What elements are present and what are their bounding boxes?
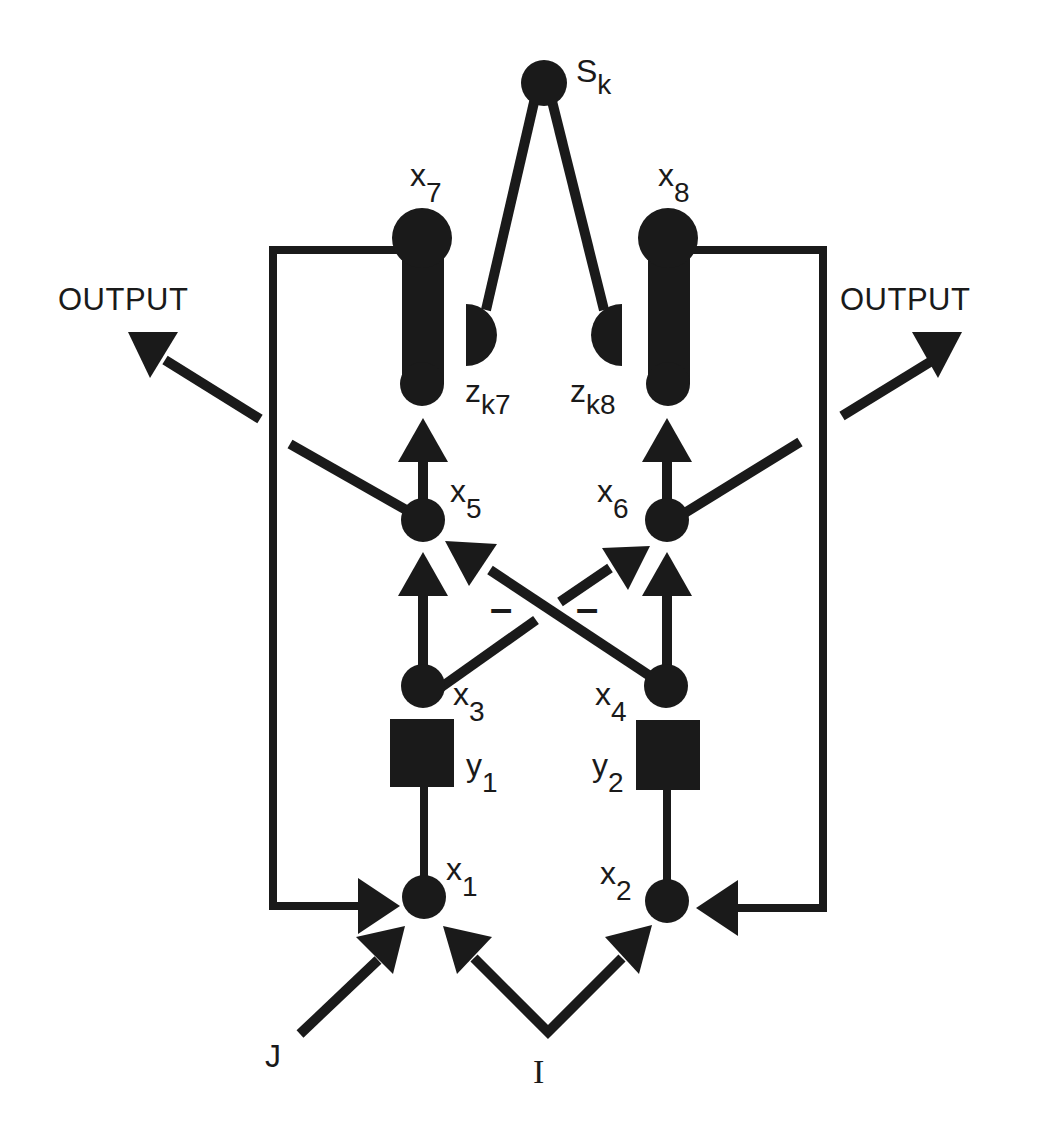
input-j-label: J [265,1038,281,1074]
output-right-line-lower [675,442,800,519]
inhibitory-sign-left: – [490,586,512,630]
x4-node [644,664,688,708]
arrowhead-x6-from-x4 [642,552,692,596]
arrowhead-feedback-x2 [696,880,738,936]
sk-to-zk7-line [486,85,538,310]
x2-label: x2 [600,855,632,906]
feedback-x8-to-x2 [690,250,823,908]
y2-label: y2 [592,747,624,798]
feedback-x7-to-x1 [273,250,400,906]
output-left-group: OUTPUT [58,282,415,515]
input-i-lines [474,958,622,1032]
x1-node [402,875,446,919]
x6-node [645,498,689,542]
x7-head [392,208,452,268]
input-i-label: I [533,1053,544,1090]
x6-label: x6 [597,473,629,524]
x5-label: x5 [450,473,482,524]
input-j-line [300,960,378,1034]
x7-tail [400,362,444,406]
zk7-synapse [466,304,497,366]
x1-label: x1 [446,851,478,902]
input-i-group: I [443,925,652,1090]
arrowhead-x1-from-j [356,926,405,974]
x5-node [401,498,445,542]
x7-node-group: x7 [392,157,452,406]
zk7-synapse-group: zk7 [465,304,511,420]
arrowhead-feedback-x1 [358,878,400,934]
x7-label: x7 [410,157,442,208]
sk-node [521,60,567,106]
zk8-synapse [591,304,622,366]
arrowhead-x5-inhibitory [445,541,497,586]
output-right-label: OUTPUT [840,282,970,317]
y1-gate [390,719,454,787]
inhibitory-sign-right: – [576,586,598,630]
arrowhead-x7 [398,418,448,462]
zk7-label: zk7 [465,373,511,420]
output-left-line-upper [165,360,260,419]
x8-tail [646,362,690,406]
x8-label: x8 [658,157,690,208]
zk8-label: zk8 [570,373,616,420]
output-right-line-upper [842,362,930,416]
x2-node [645,879,689,923]
output-left-label: OUTPUT [58,282,188,317]
sk-label: Sk [576,53,612,100]
sk-node-group: Sk [486,53,612,310]
y2-gate [636,720,700,790]
x3-node [401,664,445,708]
y1-label: y1 [466,747,498,798]
x8-head [638,208,698,268]
output-left-arrowhead [128,332,178,378]
zk8-synapse-group: zk8 [570,304,622,420]
arrowhead-x8 [642,418,692,462]
x3-label: x3 [453,676,485,727]
input-j-group: J [265,926,405,1074]
x4-label: x4 [595,676,627,727]
gated-dipole-diagram: Sk zk7 zk8 x7 x8 [0,0,1049,1131]
sk-to-zk8-line [548,85,604,310]
x8-node-group: x8 [638,157,698,406]
arrowhead-x5-from-x3 [398,552,448,596]
output-left-line-lower [290,444,415,515]
